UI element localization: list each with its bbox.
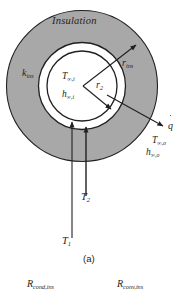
t-infinity-inner-label: T∞,i: [62, 72, 75, 82]
r-ins-label: rins: [122, 58, 133, 68]
figure-caption: (a): [83, 254, 95, 264]
insulation-label: Insulation: [52, 16, 97, 27]
insulated-tube-cross-section-figure: [0, 0, 187, 294]
r-cond-ins-label: Rcond,ins: [27, 279, 54, 289]
heat-rate-label: q: [168, 121, 173, 131]
h-infinity-outer-label: h∞,o: [146, 148, 159, 158]
t-infinity-outer-label: T∞,o: [152, 136, 166, 146]
tube-inner-circle: [47, 51, 117, 121]
t1-label: T1: [62, 236, 71, 247]
r-conv-ins-label: Rconv,ins: [117, 279, 143, 289]
k-ins-label: kins: [22, 68, 34, 78]
h-infinity-inner-label: h∞,i: [62, 90, 74, 100]
t2-label: T2: [81, 192, 90, 203]
r2-label: r2: [96, 80, 103, 90]
q-dot-overdot-icon: [170, 115, 172, 117]
